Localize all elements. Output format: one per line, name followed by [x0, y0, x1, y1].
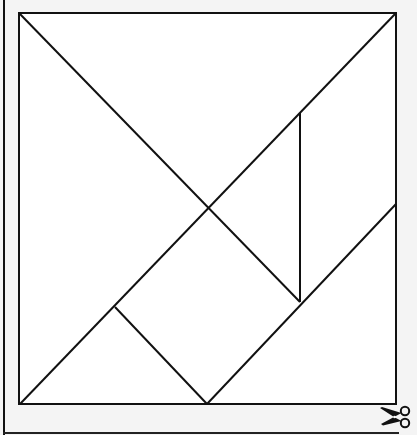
tangram-square: [0, 0, 417, 435]
scissors-icon: [378, 405, 412, 429]
tangram-sheet: [0, 0, 417, 435]
